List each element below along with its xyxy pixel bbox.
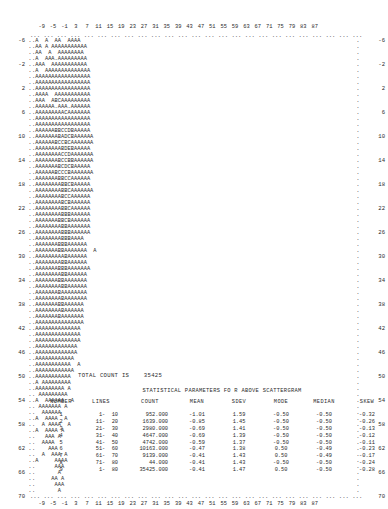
x-tick-label: 47: [195, 499, 206, 509]
x-tick-label: 27: [138, 499, 149, 509]
cell-mode: 0.50: [260, 453, 302, 460]
x-tick-label: 15: [104, 499, 115, 509]
col-header-sdev: SDEV: [218, 399, 260, 412]
x-tick-label: 63: [241, 499, 252, 509]
cell-skew: -0.17: [346, 453, 388, 460]
cell-mean: -0.41: [176, 453, 218, 460]
table-row: 321- 302980.000-0.691.41-0.50-0.50-0.13: [44, 426, 388, 433]
y-tick-label: 2: [22, 86, 25, 92]
cell-number: 3: [44, 426, 78, 433]
cell-sdev: 1.59: [218, 412, 260, 419]
y-tick-label: 22: [18, 206, 25, 212]
y-tick-label: 30: [18, 254, 25, 260]
cell-median: -0.50: [302, 412, 346, 419]
col-header-number: NUMBER: [44, 399, 78, 412]
cell-lines: 1- 10: [78, 412, 124, 419]
stats-table-title: STATISTICAL PARAMETERS FO R ABOVE SCATTE…: [0, 388, 388, 394]
cell-mean: -0.47: [176, 446, 218, 453]
y-tick-label: 38: [378, 302, 385, 308]
x-tick-label: 51: [207, 499, 218, 509]
y-tick-label: 42: [378, 326, 385, 332]
cell-median: -0.49: [302, 446, 346, 453]
y-tick-label: 46: [378, 350, 385, 356]
cell-number: 4: [44, 432, 78, 439]
cell-count: 4647.000: [124, 432, 176, 439]
table-row: 871- 8044.000-0.411.43-0.50-0.50-0.24: [44, 459, 388, 466]
y-tick-label: 18: [378, 182, 385, 188]
cell-mode: -0.50: [260, 412, 302, 419]
y-tick-label: 46: [18, 350, 25, 356]
scatter-row: . A: [32, 488, 356, 494]
x-tick-label: 43: [184, 499, 195, 509]
cell-count: 35425.000: [124, 466, 176, 473]
cell-median: -0.49: [302, 453, 346, 460]
cell-lines: 71- 80: [78, 459, 124, 466]
cell-median: -0.50: [302, 419, 346, 426]
y-tick-label: -6: [378, 38, 385, 44]
x-tick-label: 55: [218, 499, 229, 509]
cell-mean: -0.41: [176, 466, 218, 473]
table-body: 11- 10952.000-1.011.59-0.50-0.50-0.32211…: [44, 412, 388, 473]
x-tick-label: -5: [47, 499, 58, 509]
cell-mode: 0.50: [260, 446, 302, 453]
y-tick-label: 22: [378, 206, 385, 212]
cell-sdev: 1.45: [218, 419, 260, 426]
cell-skew: -0.24: [346, 459, 388, 466]
x-tick-label: 39: [173, 499, 184, 509]
x-tick-label: 79: [286, 499, 297, 509]
x-axis-labels-bottom: -9-5-13711151923273135394347515559636771…: [0, 499, 388, 509]
x-tick-label: -9: [36, 499, 47, 509]
y-tick-label: 70: [378, 494, 385, 500]
cell-median: -0.50: [302, 466, 346, 473]
y-tick-label: 2: [382, 86, 385, 92]
cell-sdev: 1.43: [218, 459, 260, 466]
cell-number: 8: [44, 459, 78, 466]
cell-mean: -0.69: [176, 432, 218, 439]
cell-mode: 0.50: [260, 466, 302, 473]
y-tick-label: 18: [18, 182, 25, 188]
cell-sdev: 1.39: [218, 432, 260, 439]
cell-number: 2: [44, 419, 78, 426]
cell-lines: 1- 80: [78, 466, 124, 473]
cell-count: 9139.000: [124, 453, 176, 460]
y-tick-label: 34: [378, 278, 385, 284]
cell-lines: 31- 40: [78, 432, 124, 439]
stats-table: NUMBER LINES COUNT MEAN SDEV MODE MEDIAN…: [0, 399, 388, 473]
cell-mode: -0.50: [260, 419, 302, 426]
cell-skew: -0.26: [346, 419, 388, 426]
y-tick-label: -2: [378, 62, 385, 68]
cell-mean: -0.85: [176, 419, 218, 426]
y-tick-label: 42: [18, 326, 25, 332]
x-tick-label: 83: [298, 499, 309, 509]
cell-skew: -0.13: [346, 426, 388, 433]
y-tick-label: 26: [378, 230, 385, 236]
cell-number: 7: [44, 453, 78, 460]
cell-count: 44.000: [124, 459, 176, 466]
cell-lines: 21- 30: [78, 426, 124, 433]
cell-mode: -0.50: [260, 459, 302, 466]
y-tick-label: 6: [382, 110, 385, 116]
table-row: 651- 6010163.000-0.471.380.50-0.49-0.23: [44, 446, 388, 453]
x-tick-label: 71: [264, 499, 275, 509]
cell-median: -0.50: [302, 439, 346, 446]
cell-lines: 51- 60: [78, 446, 124, 453]
y-tick-label: 10: [378, 134, 385, 140]
cell-mean: -0.59: [176, 439, 218, 446]
cell-lines: 61- 70: [78, 453, 124, 460]
x-tick-label: 7: [82, 499, 93, 509]
x-tick-label: 11: [93, 499, 104, 509]
cell-sdev: 1.37: [218, 439, 260, 446]
y-tick-label: 14: [18, 158, 25, 164]
cell-number: 1: [44, 412, 78, 419]
table-row: 91- 8035425.000-0.411.470.50-0.50-0.28: [44, 466, 388, 473]
col-header-mode: MODE: [260, 399, 302, 412]
x-tick-label: 35: [161, 499, 172, 509]
cell-count: 10163.000: [124, 446, 176, 453]
col-header-median: MEDIAN: [302, 399, 346, 412]
y-tick-label: 30: [378, 254, 385, 260]
cell-lines: 41- 50: [78, 439, 124, 446]
x-tick-label: 87: [309, 499, 320, 509]
cell-number: 6: [44, 446, 78, 453]
x-tick-label: 19: [116, 499, 127, 509]
